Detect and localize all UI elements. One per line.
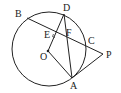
label-e: E xyxy=(44,29,50,40)
segment-da xyxy=(64,14,72,78)
label-p: P xyxy=(106,49,112,60)
label-b: B xyxy=(15,8,22,19)
geometry-diagram: B D E F C P O A xyxy=(0,0,121,93)
segment-od xyxy=(48,14,64,51)
label-c: C xyxy=(88,35,95,46)
label-o: O xyxy=(40,51,47,62)
label-f: F xyxy=(66,27,72,38)
segment-ap xyxy=(72,54,103,78)
segment-oa xyxy=(48,51,72,78)
label-d: D xyxy=(63,2,70,13)
label-a: A xyxy=(70,80,78,91)
